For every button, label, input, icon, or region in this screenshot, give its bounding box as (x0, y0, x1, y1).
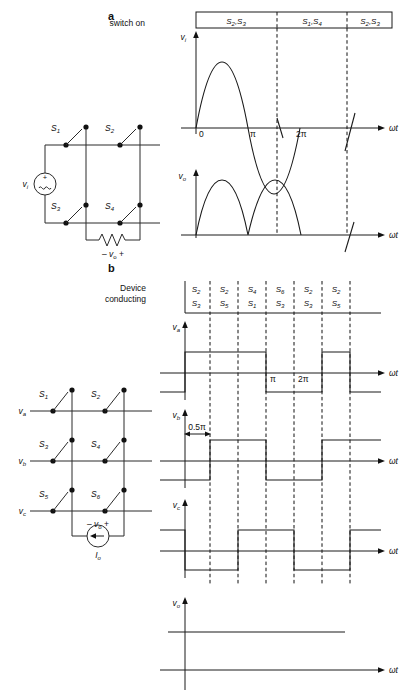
switch-s4b-label: S4 (91, 439, 101, 450)
s4-blade (120, 207, 136, 223)
switch-s1b-label: S1 (39, 389, 48, 400)
plot-vo-a-waveform (196, 180, 301, 235)
plot-vi-tick-pi: π (250, 129, 256, 139)
ac-source-sine-glyph (39, 187, 51, 189)
plot-va-xaxis-arrow (378, 370, 385, 376)
s3b-node-top (69, 437, 74, 442)
plot-vb-xaxis-arrow (378, 458, 385, 464)
s4-node-top (137, 202, 142, 207)
plot-va-xlabel: ωt (389, 368, 399, 378)
plot-vo-a-ylabel: vo (178, 171, 186, 182)
switch-s2b-label: S2 (91, 389, 101, 400)
device-cell-bottom-1: S3 (192, 299, 201, 309)
plot-va-ylabel: va (172, 322, 180, 333)
switch-cell-2: S1,S4 (302, 17, 322, 27)
plot-vc-xaxis-arrow (378, 548, 385, 554)
s6b-blade (105, 492, 120, 511)
switch-s6b-label: S6 (91, 489, 101, 500)
device-cell-top-5: S2 (304, 285, 313, 295)
s2-node-top (137, 124, 142, 129)
plot-vo-panel-b: vo ωt (160, 597, 399, 690)
plot-vo-a-yaxis-arrow (193, 169, 199, 176)
plot-va-waveform (160, 352, 381, 392)
switch-s4-label: S4 (105, 201, 115, 212)
plot-vo-b-xlabel: ωt (389, 665, 399, 675)
plot-vb-xlabel: ωt (389, 456, 399, 466)
figure-svg: a switch on S2,S3 S1,S4 S2,S3 vi ωt 0 π … (0, 0, 400, 699)
resistor-symbol (99, 234, 125, 246)
s2b-node-top (121, 387, 126, 392)
plot-vb-annotation: 0.5π (188, 422, 206, 432)
plot-vo-b-ylabel: vo (172, 598, 180, 609)
switch-cell-3: S2,S3 (360, 17, 380, 27)
phase-b-label: vb (18, 456, 26, 467)
current-source-arrow-head (90, 533, 96, 539)
plot-vc-yaxis-arrow (182, 499, 188, 506)
plot-vo-a-xaxis-arrow (378, 232, 385, 238)
device-cell-top-4: S6 (276, 285, 285, 295)
panel-b-label: b (108, 262, 115, 274)
ac-source-label: vi (22, 179, 28, 190)
plot-vo-panel-a: vo ωt (178, 169, 398, 252)
plot-vc-ylabel: vc (173, 500, 180, 511)
plot-va-tick-2pi: 2π (298, 374, 309, 384)
output-voltage-label-a: – vo + (102, 249, 124, 260)
device-conducting-label-line2: conducting (105, 294, 146, 304)
plot-vb-ylabel: vb (172, 410, 180, 421)
s1-blade (66, 129, 82, 145)
plot-vb-panel-b: vb ωt 0.5π (160, 409, 399, 488)
switch-s1-label: S1 (51, 123, 60, 134)
s2-blade (120, 129, 136, 145)
circuit-a-top-rail (45, 145, 160, 173)
s5b-blade (53, 492, 68, 511)
device-cell-bottom-2: S5 (220, 299, 229, 309)
s4b-node-top (121, 437, 126, 442)
device-cell-bottom-5: S3 (304, 299, 313, 309)
plot-vo-a-xlabel: ωt (389, 230, 399, 240)
device-conducting-label-line1: Device (120, 283, 146, 293)
phase-c-label: vc (19, 506, 26, 517)
s2b-blade (105, 392, 120, 411)
plot-vb-yaxis-arrow (182, 409, 188, 416)
s1-node-top (83, 124, 88, 129)
switch-s5b-label: S5 (39, 489, 49, 500)
s1b-node-top (69, 387, 74, 392)
plot-vi-tick-0: 0 (199, 129, 204, 139)
figure-root: a switch on S2,S3 S1,S4 S2,S3 vi ωt 0 π … (0, 0, 400, 699)
plot-vb-waveform (160, 440, 381, 480)
s4b-blade (105, 442, 120, 461)
current-source-label: Io (95, 550, 101, 561)
switch-s3b-label: S3 (39, 439, 49, 450)
plot-vi-panel-a: vi ωt 0 π 2π (180, 31, 398, 194)
switch-on-label: switch on (110, 18, 146, 28)
plot-vi-tick-2pi: 2π (296, 129, 307, 139)
s1b-blade (53, 392, 68, 411)
device-cell-bottom-6: S5 (332, 299, 341, 309)
ac-source-plus: + (43, 173, 48, 182)
phase-a-label: va (18, 406, 26, 417)
plot-vc-panel-b: vc ωt (160, 499, 399, 578)
s3-blade (66, 207, 82, 223)
circuit-panel-a: + vi S1 S2 S3 (22, 123, 160, 260)
plot-vc-waveform (160, 530, 381, 570)
device-cell-top-6: S2 (332, 285, 341, 295)
plot-va-yaxis-arrow (182, 321, 188, 328)
plot-vo-b-xaxis-arrow (378, 667, 385, 673)
s5b-node-top (69, 487, 74, 492)
circuit-a-bottom-rail (45, 195, 160, 223)
plot-va-tick-pi: π (270, 374, 276, 384)
plot-vc-xlabel: ωt (389, 546, 399, 556)
device-cell-top-3: S4 (248, 285, 257, 295)
switch-cell-1: S2,S3 (226, 17, 246, 27)
device-cell-top-2: S2 (220, 285, 229, 295)
switch-s3-label: S3 (51, 201, 61, 212)
s6b-node-top (121, 487, 126, 492)
plot-vi-xaxis-arrow (378, 125, 385, 131)
plot-va-panel-b: va ωt π 2π (160, 321, 399, 400)
circuit-panel-b: va vb vc S1 S2 S3 (18, 387, 152, 561)
device-cell-bottom-4: S3 (276, 299, 285, 309)
plot-vi-xlabel: ωt (389, 123, 399, 133)
plot-vi-yaxis-arrow (193, 31, 199, 38)
plot-vi-ylabel: vi (180, 32, 186, 43)
device-cell-bottom-3: S1 (248, 299, 257, 309)
